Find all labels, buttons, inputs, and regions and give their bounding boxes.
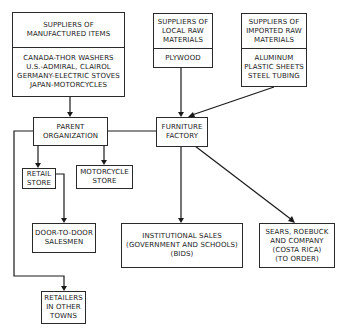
node-body: MOTORCYCLE STORE: [77, 166, 132, 188]
label: SUPPLIERS OF: [158, 18, 209, 27]
label: ORGANIZATION: [43, 132, 98, 141]
node-header: SUPPLIERS OF MANUFACTURED ITEMS: [13, 13, 124, 47]
label: PARENT: [57, 123, 85, 132]
label: FURNITURE: [162, 123, 203, 132]
node-institutional-sales: INSTITUTIONAL SALES (GOVERNMENT AND SCHO…: [121, 223, 243, 268]
edge-retail-to-door: [55, 174, 64, 219]
node-door-to-door-salesmen: DOOR-TO-DOOR SALESMEN: [32, 223, 96, 253]
edge-factory-to-sears: [195, 146, 292, 220]
node-items: CANADA-THOR WASHERS U.S.-ADMIRAL, CLAIRO…: [13, 47, 124, 96]
node-body: PARENT ORGANIZATION: [34, 118, 107, 145]
label: PLASTIC SHEETS: [244, 63, 304, 72]
label: MANUFACTURED ITEMS: [27, 30, 110, 39]
label: STORE: [92, 177, 116, 186]
label: SEARS, ROEBUCK: [265, 228, 328, 237]
label: (GOVERNMENT AND SCHOOLS): [126, 241, 238, 250]
label: (TO ORDER): [275, 255, 319, 264]
label: U.S.-ADMIRAL, CLAIROL: [26, 63, 111, 72]
label: FACTORY: [166, 132, 198, 141]
label: GERMANY-ELECTRIC STOVES: [17, 72, 120, 81]
edge-parent-to-retailers: [14, 131, 64, 287]
label: SUPPLIERS OF: [249, 18, 300, 27]
label: (COSTA RICA): [273, 246, 322, 255]
node-body: INSTITUTIONAL SALES (GOVERNMENT AND SCHO…: [122, 224, 242, 267]
node-suppliers-local: SUPPLIERS OF LOCAL RAW MATERIALS PLYWOOD: [153, 13, 213, 68]
node-header: SUPPLIERS OF LOCAL RAW MATERIALS: [154, 14, 212, 48]
node-motorcycle-store: MOTORCYCLE STORE: [76, 165, 133, 189]
edge-imported-to-factory: [192, 87, 274, 115]
label: RETAILERS: [44, 294, 82, 303]
node-retail-store: RETAIL STORE: [22, 168, 56, 189]
node-body: RETAIL STORE: [23, 169, 55, 188]
node-sears-roebuck: SEARS, ROEBUCK AND COMPANY (COSTA RICA) …: [259, 223, 335, 268]
label: ALUMINUM: [255, 54, 294, 63]
node-suppliers-imported: SUPPLIERS OF IMPORTED RAW MATERIALS ALUM…: [241, 13, 307, 87]
label: TOWNS: [50, 312, 77, 321]
node-body: SEARS, ROEBUCK AND COMPANY (COSTA RICA) …: [260, 224, 334, 267]
label: (BIDS): [171, 250, 194, 259]
label: JAPAN-MOTORCYCLES: [30, 81, 107, 90]
label: SALESMEN: [45, 238, 84, 247]
node-items: PLYWOOD: [154, 48, 212, 67]
label: DOOR-TO-DOOR: [35, 229, 93, 238]
node-body: RETAILERS IN OTHER TOWNS: [42, 292, 85, 323]
label: MATERIALS: [163, 36, 203, 45]
label: STEEL TUBING: [248, 72, 300, 81]
node-body: FURNITURE FACTORY: [157, 118, 207, 146]
label: IN OTHER: [46, 303, 81, 312]
label: STORE: [27, 179, 51, 188]
label: AND COMPANY: [270, 237, 323, 246]
node-header: SUPPLIERS OF IMPORTED RAW MATERIALS: [242, 14, 306, 48]
label: MATERIALS: [254, 36, 294, 45]
label: RETAIL: [27, 170, 51, 179]
node-suppliers-manufactured: SUPPLIERS OF MANUFACTURED ITEMS CANADA-T…: [12, 12, 125, 97]
label: IMPORTED RAW: [246, 27, 302, 36]
node-retailers-other-towns: RETAILERS IN OTHER TOWNS: [41, 291, 86, 324]
node-parent-organization: PARENT ORGANIZATION: [33, 117, 108, 146]
label: LOCAL RAW: [162, 27, 204, 36]
label: INSTITUTIONAL SALES: [142, 232, 222, 241]
label: SUPPLIERS OF: [43, 21, 94, 30]
label: MOTORCYCLE: [80, 168, 129, 177]
label: CANADA-THOR WASHERS: [23, 54, 113, 63]
node-items: ALUMINUM PLASTIC SHEETS STEEL TUBING: [242, 48, 306, 86]
node-body: DOOR-TO-DOOR SALESMEN: [33, 224, 95, 252]
label: PLYWOOD: [165, 54, 201, 63]
node-furniture-factory: FURNITURE FACTORY: [156, 117, 208, 147]
